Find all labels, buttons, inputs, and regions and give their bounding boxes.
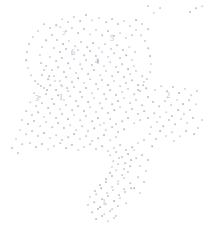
scatter-point [95, 218, 97, 220]
scatter-point [184, 88, 186, 90]
scatter-point [165, 135, 167, 137]
scatter-point [75, 129, 77, 131]
scatter-point [180, 118, 182, 120]
scatter-point [37, 135, 39, 137]
scatter-point [65, 76, 67, 78]
scatter-point [61, 18, 63, 20]
scatter-point [133, 65, 135, 67]
scatter-point [111, 186, 113, 188]
scatter-point [121, 174, 123, 176]
scatter-point [46, 89, 48, 91]
scatter-point [41, 74, 43, 76]
scatter-point [127, 171, 129, 173]
scatter-point [33, 120, 35, 122]
scatter-point [201, 5, 203, 7]
scatter-point [81, 96, 83, 98]
scatter-point [125, 149, 127, 151]
scatter-point [81, 68, 83, 70]
scatter-point [87, 204, 89, 206]
scatter-point [145, 170, 147, 172]
scatter-point [109, 118, 111, 120]
scatter-point [135, 29, 137, 31]
scatter-point [77, 32, 79, 34]
scatter-point [95, 111, 97, 113]
scatter-point [197, 127, 199, 129]
scatter-point [107, 195, 109, 197]
scatter-point [69, 124, 71, 126]
scatter-point [39, 96, 41, 98]
scatter-point [31, 130, 33, 132]
scatter-point [150, 63, 152, 65]
cluster-label: 2 [62, 30, 66, 37]
scatter-point [119, 32, 121, 34]
scatter-point [11, 147, 13, 149]
scatter-point [99, 74, 101, 76]
scatter-point [103, 213, 105, 215]
scatter-point [113, 217, 115, 219]
scatter-point [85, 135, 87, 137]
scatter-point [71, 27, 73, 29]
scatter-point [37, 30, 39, 32]
scatter-point [101, 215, 103, 217]
scatter-point [119, 57, 121, 59]
scatter-point [97, 137, 99, 139]
scatter-point [121, 91, 123, 93]
scatter-point [25, 110, 27, 112]
scatter-point [109, 139, 111, 141]
scatter-point [135, 157, 137, 159]
scatter-point [57, 122, 59, 124]
scatter-point [109, 210, 111, 212]
scatter-point [131, 108, 133, 110]
scatter-point [121, 120, 123, 122]
scatter-point [131, 79, 133, 81]
scatter-point [59, 26, 61, 28]
cluster-label: 1 [102, 199, 106, 207]
scatter-point [176, 99, 178, 101]
scatter-point [97, 88, 99, 90]
scatter-point [67, 21, 69, 23]
scatter-point [59, 142, 61, 144]
scatter-point [127, 117, 129, 119]
scatter-point [101, 51, 103, 53]
scatter-point [49, 27, 51, 29]
scatter-point [99, 124, 101, 126]
cluster-label: 2 [166, 92, 170, 100]
scatter-point [123, 97, 125, 99]
scatter-point [43, 116, 45, 118]
scatter-point [95, 193, 97, 195]
scatter-point [55, 60, 57, 62]
scatter-point [121, 156, 123, 158]
scatter-point [51, 98, 53, 100]
scatter-point [45, 93, 47, 95]
scatter-point [51, 34, 53, 36]
scatter-point [93, 97, 95, 99]
scatter-point [133, 149, 135, 151]
scatter-point [53, 47, 55, 49]
scatter-point [137, 176, 139, 178]
scatter-point [75, 72, 77, 74]
scatter-point [105, 98, 107, 100]
scatter-plot-canvas: 65423121 [0, 0, 208, 228]
cluster-label: 3 [35, 95, 39, 103]
scatter-point [192, 117, 194, 119]
scatter-point [49, 84, 51, 86]
scatter-point [45, 121, 47, 123]
scatter-point [104, 43, 106, 45]
scatter-point [141, 23, 143, 25]
scatter-point [48, 75, 50, 77]
scatter-point [190, 94, 192, 96]
scatter-point [131, 146, 133, 148]
scatter-point [127, 153, 129, 155]
scatter-point [115, 136, 117, 138]
scatter-point [131, 59, 133, 61]
scatter-point [61, 139, 63, 141]
scatter-point [196, 90, 198, 92]
scatter-point [89, 143, 91, 145]
scatter-point [45, 65, 47, 67]
scatter-point [75, 100, 77, 102]
scatter-point [150, 126, 152, 128]
scatter-point [117, 183, 119, 185]
scatter-point [53, 103, 55, 105]
scatter-point [147, 159, 149, 161]
scatter-point [179, 135, 181, 137]
